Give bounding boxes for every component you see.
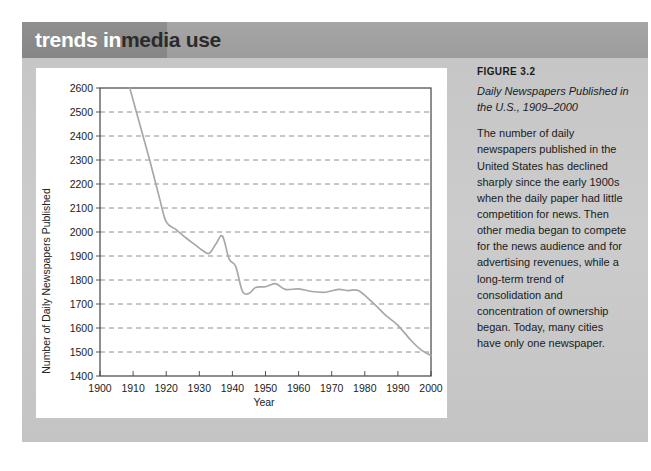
- x-tick-label: 1920: [155, 382, 179, 394]
- x-tick-label: 1950: [254, 382, 278, 394]
- x-tick-label: 1990: [386, 382, 410, 394]
- figure-page: trends in media use 14001500160017001800…: [0, 0, 651, 471]
- figure-caption-column: FIGURE 3.2 Daily Newspapers Published in…: [477, 66, 629, 351]
- y-tick-label: 2600: [70, 82, 94, 94]
- section-header-bar: trends in media use: [22, 22, 648, 58]
- y-tick-label: 1400: [70, 370, 94, 382]
- x-axis-tick-labels: 1900191019201930194019501960197019801990…: [88, 382, 443, 394]
- figure-number-label: FIGURE 3.2: [477, 66, 629, 77]
- chart-panel: 1400150016001700180019002000210022002300…: [36, 68, 447, 418]
- x-tick-label: 1940: [221, 382, 245, 394]
- x-tick-label: 1930: [188, 382, 212, 394]
- section-header-text: trends in media use: [35, 22, 221, 58]
- y-tick-label: 2200: [70, 178, 94, 190]
- x-tick-label: 2000: [419, 382, 443, 394]
- y-tick-label: 2300: [70, 154, 94, 166]
- header-title-primary: trends in: [35, 28, 121, 52]
- y-axis-tick-labels: 1400150016001700180019002000210022002300…: [70, 82, 100, 382]
- grid-lines: [100, 112, 431, 352]
- figure-description-text: The number of daily newspapers published…: [477, 125, 629, 351]
- y-tick-label: 1600: [70, 322, 94, 334]
- y-tick-label: 1700: [70, 298, 94, 310]
- header-title-secondary: media use: [121, 28, 221, 52]
- y-tick-label: 1900: [70, 250, 94, 262]
- x-axis-tick-marks: [100, 371, 431, 376]
- x-tick-label: 1970: [320, 382, 344, 394]
- y-tick-label: 2400: [70, 130, 94, 142]
- x-tick-label: 1980: [353, 382, 377, 394]
- y-tick-label: 2100: [70, 202, 94, 214]
- x-tick-label: 1960: [287, 382, 311, 394]
- chart-svg: 1400150016001700180019002000210022002300…: [36, 68, 447, 418]
- x-tick-label: 1910: [121, 382, 145, 394]
- y-tick-label: 2500: [70, 106, 94, 118]
- line-chart: 1400150016001700180019002000210022002300…: [36, 68, 447, 418]
- x-tick-label: 1900: [88, 382, 112, 394]
- y-tick-label: 1800: [70, 274, 94, 286]
- figure-title-text: Daily Newspapers Published in the U.S., …: [477, 84, 629, 115]
- data-series-line: [130, 88, 431, 356]
- y-axis-label: Number of Daily Newspapers Published: [40, 188, 52, 374]
- x-axis-label: Year: [253, 396, 275, 408]
- y-tick-label: 1500: [70, 346, 94, 358]
- y-tick-label: 2000: [70, 226, 94, 238]
